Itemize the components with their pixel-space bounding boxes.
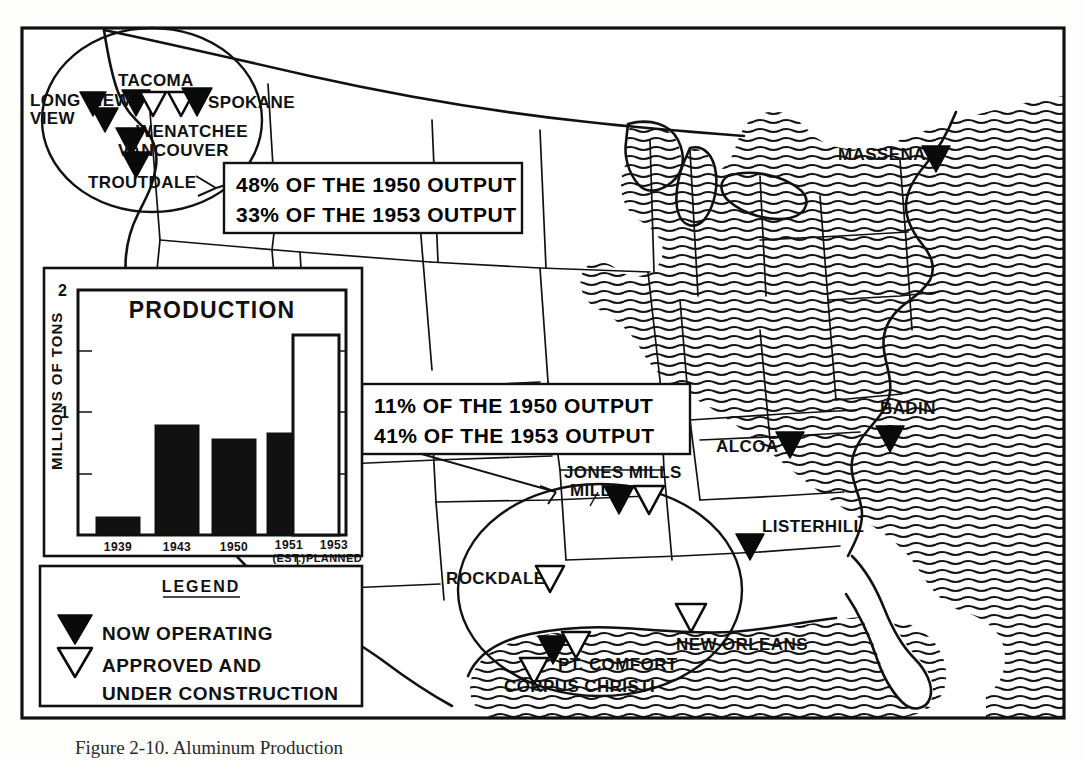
bar-1939	[96, 517, 140, 535]
plant-label-alcoa: ALCOA	[716, 437, 778, 456]
plant-label-new-orleans: NEW ORLEANS	[676, 635, 808, 654]
gulf-callout-line1: 11% OF THE 1950 OUTPUT	[374, 394, 653, 417]
plant-label-pt-comfort: PT. COMFORT	[558, 655, 678, 674]
figure-stage: 48% OF THE 1950 OUTPUT 33% OF THE 1953 O…	[0, 0, 1085, 761]
plant-label-corpus-christi: CORPUS CHRISTI	[504, 677, 655, 696]
legend-label-operating: NOW OPERATING	[102, 623, 273, 644]
plant-label-view: VIEW	[30, 109, 76, 128]
chart-xsublabel-4: PLANNED	[306, 552, 362, 564]
chart-y-axis-label: MILLIONS OF TONS	[48, 312, 65, 470]
figure-caption: Figure 2-10. Aluminum Production	[75, 737, 343, 761]
northwest-callout: 48% OF THE 1950 OUTPUT 33% OF THE 1953 O…	[196, 163, 522, 233]
legend-label-approved: APPROVED AND	[102, 655, 262, 676]
bar-1953	[293, 335, 339, 535]
plant-label-wenatchee: WENATCHEE	[136, 122, 248, 141]
chart-xlabel-3: 1951	[275, 538, 303, 552]
bar-1950	[212, 439, 256, 535]
northwest-callout-line2: 33% OF THE 1953 OUTPUT	[236, 203, 517, 226]
legend-label-under-construction: UNDER CONSTRUCTION	[102, 683, 339, 704]
legend-panel: LEGEND NOW OPERATING APPROVED AND UNDER …	[40, 566, 362, 706]
plant-label-listerhill: LISTERHILL	[762, 517, 864, 536]
chart-ytick-top: 2	[58, 282, 67, 299]
chart-xsublabel-3: (EST.)	[273, 552, 306, 564]
chart-xlabel-4: 1953	[320, 538, 348, 552]
plant-label-badin: BADIN	[880, 399, 936, 418]
plant-label-troutdale: TROUTDALE	[88, 173, 196, 192]
bar-1943	[155, 425, 199, 535]
northwest-callout-line1: 48% OF THE 1950 OUTPUT	[236, 173, 517, 196]
plant-label-spokane: SPOKANE	[208, 93, 295, 112]
gulf-callout-line2: 41% OF THE 1953 OUTPUT	[374, 424, 655, 447]
plant-label-jones: JONES MILLS	[564, 463, 682, 482]
plant-label-massena: MASSENA	[838, 145, 926, 164]
chart-xlabel-1: 1943	[163, 540, 191, 554]
production-chart-panel: 2 1 MILLIONS OF TONS PRODUCTION 1939 194…	[44, 268, 362, 564]
chart-xlabel-2: 1950	[220, 540, 248, 554]
chart-xlabel-0: 1939	[104, 540, 132, 554]
aluminum-plant-map: 48% OF THE 1950 OUTPUT 33% OF THE 1953 O…	[0, 0, 1085, 761]
plant-spokane[interactable]: SPOKANE	[182, 88, 295, 116]
plant-label-rockdale: ROCKDALE	[446, 569, 546, 588]
chart-title: PRODUCTION	[129, 297, 296, 323]
plant-label-tacoma: TACOMA	[118, 71, 194, 90]
legend-title: LEGEND	[162, 578, 241, 595]
